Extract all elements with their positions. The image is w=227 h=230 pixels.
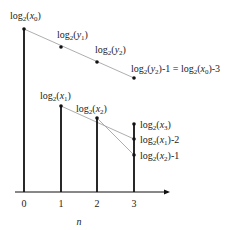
label-log2-x2-minus-1: log2(x2)-1 [140, 150, 179, 163]
tick-label-0: 0 [22, 198, 27, 209]
point-x3 [132, 122, 136, 126]
point-y2 [95, 60, 99, 64]
label-log2-y2: log2(y2) [95, 44, 126, 57]
label-log2-x0: log2(x0) [10, 10, 41, 23]
label-log2-x1: log2(x1) [40, 90, 71, 103]
point-x1-minus-2 [132, 137, 136, 141]
point-x0 [22, 27, 26, 31]
point-y2-minus-1 [132, 76, 136, 80]
point-x1 [59, 104, 63, 108]
label-log2-x3: log2(x3) [140, 119, 171, 132]
point-x2 [95, 116, 99, 120]
tick-label-2: 2 [95, 198, 100, 209]
point-x2-minus-1 [132, 153, 136, 157]
point-y1 [59, 45, 63, 49]
label-log2-x1-minus-2: log2(x1)-2 [140, 134, 179, 147]
label-log2-y1: log2(y1) [57, 29, 88, 42]
tick-label-3: 3 [132, 198, 137, 209]
log-stem-diagram: log2(x0) log2(y1) log2(y2) log2(y2)-1 = … [0, 0, 227, 230]
tick-label-1: 1 [59, 198, 64, 209]
label-log2-y2-minus-1: log2(y2)-1 = log2(x0)-3 [131, 63, 220, 76]
axis-arrow-icon [164, 190, 170, 195]
labels: log2(x0) log2(y1) log2(y2) log2(y2)-1 = … [10, 10, 220, 163]
label-log2-x2: log2(x2) [76, 103, 107, 116]
tick-labels: 0 1 2 3 n [22, 198, 137, 227]
x-axis [15, 190, 170, 195]
x-axis-label: n [77, 216, 82, 227]
